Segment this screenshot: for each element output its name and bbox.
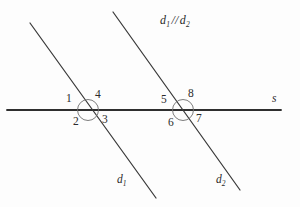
angle-4-label: 4 (95, 89, 101, 101)
angle-8-label: 8 (188, 88, 194, 100)
angle-3-label: 3 (102, 114, 108, 126)
label-line-s: s (272, 93, 276, 105)
angle-5-label: 5 (161, 94, 167, 106)
angle-7-label: 7 (196, 113, 202, 125)
parallel-symbol: // (170, 13, 179, 27)
angle-1-label: 1 (66, 93, 72, 105)
relation-d2-sub: 2 (186, 20, 190, 29)
label-line-d2: d2 (216, 174, 226, 188)
geometry-canvas (0, 0, 300, 207)
label-d1-sub: 1 (123, 179, 127, 188)
angle-2-label: 2 (73, 116, 79, 128)
parallel-relation-label: d1//d2 (160, 14, 190, 29)
line-d2 (113, 12, 240, 190)
label-s-text: s (272, 92, 276, 104)
angle-6-label: 6 (168, 117, 174, 129)
label-d2-sub: 2 (222, 179, 226, 188)
geometry-figure: d1//d2 s d1 d2 12345678 (0, 0, 300, 207)
label-line-d1: d1 (117, 174, 127, 188)
